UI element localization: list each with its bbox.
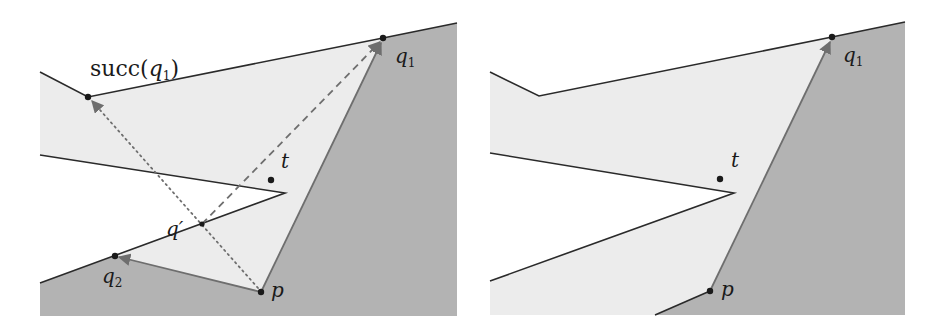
point-q2: [112, 253, 118, 259]
right-label-p: p: [721, 277, 734, 301]
point-q1: [380, 35, 386, 41]
diagram-canvas: succ(q1) q1 q2 p t q′ q1 p t: [0, 0, 942, 334]
point-p: [258, 289, 264, 295]
right-point-q1: [829, 34, 835, 40]
label-p: p: [271, 278, 284, 302]
label-t: t: [281, 149, 290, 173]
right-panel: q1 p t: [490, 22, 905, 315]
point-q-prime: [199, 221, 204, 226]
right-point-t: [717, 176, 723, 182]
right-label-t: t: [731, 148, 740, 172]
label-succ-q1: succ(q1): [90, 56, 179, 83]
left-panel: succ(q1) q1 q2 p t q′: [40, 23, 457, 316]
point-succ-q1: [85, 94, 91, 100]
label-q-prime: q′: [166, 217, 184, 241]
point-t: [268, 177, 274, 183]
right-point-p: [707, 288, 713, 294]
